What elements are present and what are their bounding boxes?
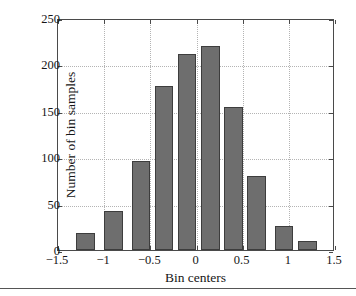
y-axis-title: Number of bin samples: [63, 72, 79, 198]
y-tick-label: 50: [48, 198, 61, 212]
y-tick-label: 0: [54, 244, 60, 258]
plot-area: [57, 19, 334, 251]
y-tick-label: 100: [41, 151, 60, 165]
histogram-bar: [155, 86, 173, 250]
x-tick-label: 0: [192, 253, 198, 267]
page-separator-rule: [0, 288, 356, 289]
histogram-bar: [247, 176, 265, 250]
x-tick-label: 0.5: [234, 253, 250, 267]
x-tick-label: −0.5: [138, 253, 161, 267]
histogram-bar: [201, 46, 219, 250]
histogram-bar: [178, 54, 196, 250]
y-tick-label: 200: [41, 58, 60, 72]
histogram-bar: [224, 107, 242, 250]
x-tick-label: 1: [285, 253, 291, 267]
histogram-bar: [298, 241, 316, 250]
histogram-bar: [104, 211, 122, 250]
histogram-figure: −1.5−1−0.500.511.5 050100150200250 Bin c…: [0, 0, 356, 296]
x-tick-mark: [335, 246, 336, 250]
x-tick-mark: [335, 20, 336, 24]
histogram-bar: [76, 233, 94, 250]
histogram-bar: [132, 161, 150, 250]
x-axis-title: Bin centers: [57, 270, 334, 286]
bar-series: [58, 20, 333, 250]
x-tick-label: 1.5: [326, 253, 342, 267]
y-tick-label: 250: [41, 12, 60, 26]
histogram-bar: [275, 226, 293, 250]
y-tick-label: 150: [41, 105, 60, 119]
x-tick-label: −1: [97, 253, 110, 267]
